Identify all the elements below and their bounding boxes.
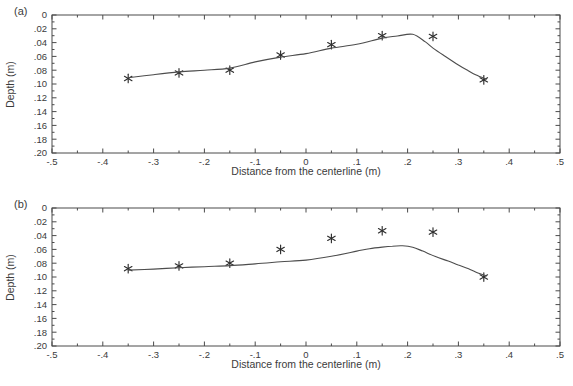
y-tick-label: .20 — [34, 340, 47, 351]
y-tick-label: .06 — [34, 244, 47, 255]
y-tick-label: .06 — [34, 51, 47, 62]
asterisk-data-point-marker — [175, 69, 182, 78]
asterisk-data-point-marker — [124, 74, 131, 83]
y-tick-label: .02 — [34, 23, 47, 34]
y-tick-label: .10 — [34, 271, 47, 282]
model-curve — [128, 246, 486, 276]
y-tick-label: .14 — [34, 106, 47, 117]
asterisk-data-point-marker — [429, 228, 436, 237]
y-tick-label: .16 — [34, 313, 47, 324]
y-tick-label: .18 — [34, 134, 47, 145]
panel-a-y-axis-title: Depth (m) — [4, 16, 17, 154]
asterisk-data-point-marker — [378, 226, 385, 235]
y-tick-label: .04 — [34, 230, 47, 241]
asterisk-data-point-marker — [124, 264, 131, 273]
asterisk-data-point-marker — [277, 245, 284, 254]
asterisk-data-point-marker — [429, 32, 436, 41]
y-tick-label: 0 — [42, 202, 47, 213]
y-tick-label: .12 — [34, 285, 47, 296]
y-tick-label: .08 — [34, 65, 47, 76]
asterisk-data-point-marker — [175, 262, 182, 271]
y-tick-label: .20 — [34, 147, 47, 158]
panel-b-y-axis-title: Depth (m) — [4, 209, 17, 347]
y-tick-label: .16 — [34, 120, 47, 131]
two-panel-depth-profile-figure: -.5-.4-.3-.2-.10.1.2.3.4.50.02.04.06.08.… — [0, 0, 573, 386]
y-tick-label: .18 — [34, 327, 47, 338]
y-tick-label: .10 — [34, 78, 47, 89]
y-tick-label: .12 — [34, 92, 47, 103]
panel-a-x-axis-title: Distance from the centerline (m) — [52, 165, 560, 178]
y-tick-label: .08 — [34, 258, 47, 269]
panel-b-x-axis-title: Distance from the centerline (m) — [52, 358, 560, 371]
panel-a: -.5-.4-.3-.2-.10.1.2.3.4.50.02.04.06.08.… — [0, 0, 573, 193]
y-tick-label: .14 — [34, 299, 47, 310]
y-tick-label: .02 — [34, 216, 47, 227]
panel-b: -.5-.4-.3-.2-.10.1.2.3.4.50.02.04.06.08.… — [0, 193, 573, 386]
asterisk-data-point-marker — [328, 234, 335, 243]
y-tick-label: 0 — [42, 9, 47, 20]
y-tick-label: .04 — [34, 37, 47, 48]
